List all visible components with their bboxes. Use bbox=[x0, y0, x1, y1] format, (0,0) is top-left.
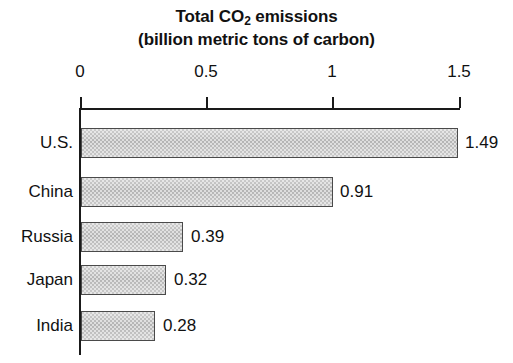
bar-value-russia: 0.39 bbox=[191, 227, 224, 247]
x-tick-label-0: 0 bbox=[50, 62, 110, 82]
bar-row-india: India 0.28 bbox=[0, 311, 513, 341]
bar-row-japan: Japan 0.32 bbox=[0, 265, 513, 295]
x-axis-line bbox=[80, 108, 460, 110]
bar-value-india: 0.28 bbox=[163, 316, 196, 336]
category-label-india: India bbox=[0, 316, 73, 336]
x-tick-label-1-5: 1.5 bbox=[429, 62, 489, 82]
bar-chart-plot-area: 0 0.5 1 1.5 U.S. 1.49 China 0.91 Russia … bbox=[0, 0, 513, 363]
bar-russia bbox=[81, 222, 183, 252]
x-axis-tick-0 bbox=[80, 97, 82, 108]
category-label-japan: Japan bbox=[0, 270, 73, 290]
bar-row-russia: Russia 0.39 bbox=[0, 222, 513, 252]
bar-value-china: 0.91 bbox=[340, 182, 373, 202]
bar-row-china: China 0.91 bbox=[0, 177, 513, 207]
bar-india bbox=[81, 311, 155, 341]
bar-us bbox=[81, 128, 458, 158]
x-axis-tick-1-5 bbox=[459, 97, 461, 108]
x-axis-tick-0-5 bbox=[206, 97, 208, 108]
bar-value-us: 1.49 bbox=[465, 133, 498, 153]
x-tick-label-0-5: 0.5 bbox=[176, 62, 236, 82]
bar-value-japan: 0.32 bbox=[174, 270, 207, 290]
category-label-us: U.S. bbox=[0, 133, 73, 153]
category-label-china: China bbox=[0, 182, 73, 202]
category-label-russia: Russia bbox=[0, 227, 73, 247]
x-tick-label-1: 1 bbox=[302, 62, 362, 82]
x-axis-tick-1 bbox=[332, 97, 334, 108]
bar-japan bbox=[81, 265, 166, 295]
bar-china bbox=[81, 177, 333, 207]
bar-row-us: U.S. 1.49 bbox=[0, 128, 513, 158]
